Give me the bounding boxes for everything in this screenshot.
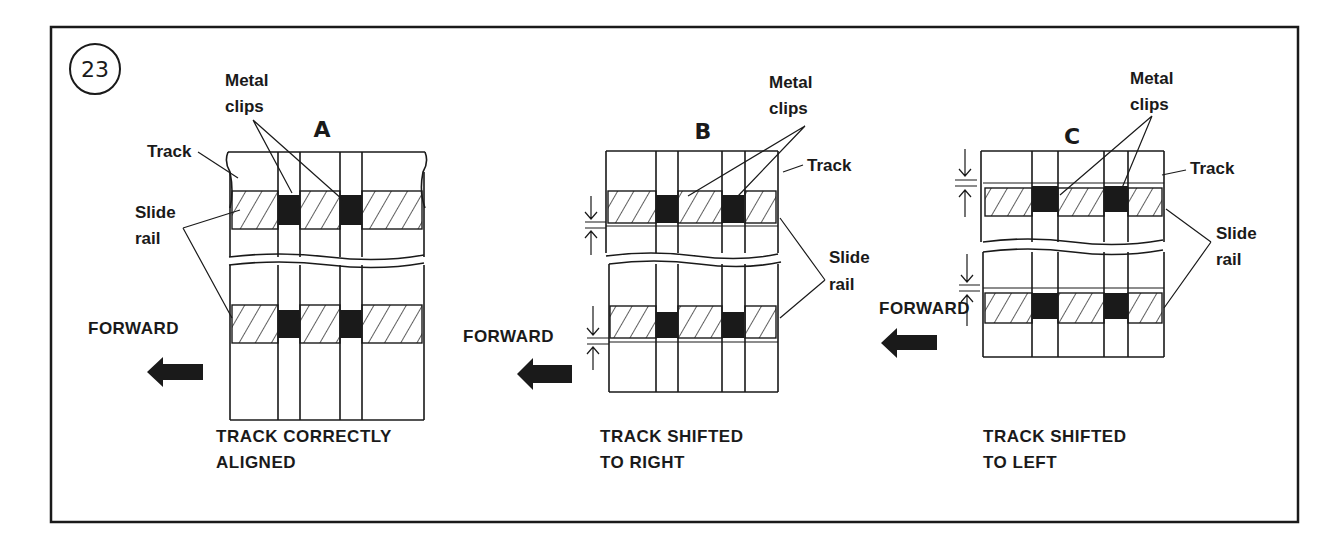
caption-c-line1: TRACK SHIFTED xyxy=(983,427,1126,446)
metal-clip xyxy=(1104,293,1128,319)
figure-number: 23 xyxy=(81,57,109,82)
metal-clip xyxy=(278,310,300,338)
figure-number-badge: 23 xyxy=(70,44,120,94)
forward-label: FORWARD xyxy=(879,299,970,318)
panel-c: Metal clips C Track Slide rail FORWARD xyxy=(879,69,1257,358)
metal-clip xyxy=(656,312,678,338)
track-alignment-diagram: 23 Metal clips A Track Slide rail FORWAR… xyxy=(0,0,1340,546)
slide-rail-label-2: rail xyxy=(135,229,161,248)
slide-rail-label: Slide xyxy=(1216,224,1257,243)
metal-clip xyxy=(1104,186,1128,212)
track-label: Track xyxy=(1190,159,1235,178)
metal-clips-label: Metal xyxy=(1130,69,1173,88)
forward-arrow-icon xyxy=(147,357,203,387)
metal-clip xyxy=(1032,293,1058,319)
forward-arrow-icon xyxy=(881,328,937,358)
metal-clip xyxy=(722,312,744,338)
forward-arrow-icon xyxy=(517,358,572,390)
slide-rail-label: Slide xyxy=(829,248,870,267)
caption-c-line2: TO LEFT xyxy=(983,453,1057,472)
metal-clips-label: Metal xyxy=(769,73,812,92)
metal-clip xyxy=(340,310,362,338)
metal-clips-label-2: clips xyxy=(769,99,808,118)
panel-b: Metal clips B Track Slide rail FORWARD xyxy=(463,73,870,392)
caption-b-line2: TO RIGHT xyxy=(600,453,685,472)
metal-clips-label-2: clips xyxy=(1130,95,1169,114)
track-label: Track xyxy=(147,142,192,161)
slide-rail-label-2: rail xyxy=(829,275,855,294)
slide-rail-label: Slide xyxy=(135,203,176,222)
caption-b-line1: TRACK SHIFTED xyxy=(600,427,743,446)
metal-clips-label: Metal xyxy=(225,71,268,90)
forward-label: FORWARD xyxy=(463,327,554,346)
caption-a-line1: TRACK CORRECTLY xyxy=(216,427,392,446)
caption-a-line2: ALIGNED xyxy=(216,453,296,472)
forward-label: FORWARD xyxy=(88,319,179,338)
metal-clips-label-2: clips xyxy=(225,97,264,116)
metal-clip xyxy=(278,195,300,225)
slide-rail-label-2: rail xyxy=(1216,250,1242,269)
track-label: Track xyxy=(807,156,852,175)
track-diagram-c xyxy=(981,151,1164,357)
track-diagram-b xyxy=(606,151,781,392)
metal-clip xyxy=(656,195,678,223)
panel-letter-b: B xyxy=(695,119,712,144)
panel-letter-a: A xyxy=(313,117,330,142)
gap-indicator-icon xyxy=(585,196,609,370)
panel-a: Metal clips A Track Slide rail FORWARD xyxy=(88,71,427,420)
metal-clip xyxy=(1032,186,1058,212)
panel-letter-c: C xyxy=(1064,124,1080,149)
track-diagram-a xyxy=(226,152,426,420)
metal-clip xyxy=(722,195,744,223)
